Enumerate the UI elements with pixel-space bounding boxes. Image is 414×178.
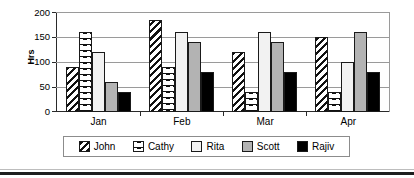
bar-rajiv-jan[interactable] [118, 92, 131, 112]
x-tick-label: Feb [140, 116, 223, 127]
bar-group-apr [306, 12, 389, 112]
bar-cathy-mar[interactable] [245, 92, 258, 112]
x-tick-label: Mar [224, 116, 307, 127]
y-tick-label: 150 [24, 32, 50, 42]
legend-item-rita[interactable]: Rita [191, 141, 224, 152]
bar-scott-jan[interactable] [105, 82, 118, 112]
bar-cathy-jan[interactable] [79, 32, 92, 112]
legend-swatch-icon-rajiv [297, 141, 308, 152]
bar-group-jan [57, 12, 140, 112]
bar-groups [57, 12, 389, 112]
bar-cathy-feb[interactable] [162, 67, 175, 112]
bar-group-mar [223, 12, 306, 112]
divider-thick [0, 172, 414, 175]
bar-rajiv-mar[interactable] [284, 72, 297, 112]
legend-swatch-icon-rita [191, 141, 202, 152]
bar-scott-mar[interactable] [271, 42, 284, 112]
legend-label: Scott [257, 141, 280, 152]
x-tick-label: Jan [57, 116, 140, 127]
y-tick-mark [52, 37, 56, 38]
bar-rita-apr[interactable] [341, 62, 354, 112]
legend-swatch-icon-cathy [133, 141, 144, 152]
plot-area [56, 12, 390, 112]
y-tick-mark [52, 62, 56, 63]
bar-chart: Hrs 200 150 100 50 0 Jan Feb Mar Apr Joh… [0, 0, 414, 178]
bar-cathy-apr[interactable] [328, 92, 341, 112]
legend-item-john[interactable]: John [79, 141, 116, 152]
legend-swatch-icon-john [79, 141, 90, 152]
bar-john-apr[interactable] [315, 37, 328, 112]
legend-label: Cathy [148, 141, 174, 152]
x-tick-label: Apr [307, 116, 390, 127]
y-tick-mark [52, 12, 56, 13]
divider-thin [0, 169, 414, 170]
y-tick-label: 0 [24, 107, 50, 117]
legend-item-cathy[interactable]: Cathy [133, 141, 174, 152]
bar-group-feb [140, 12, 223, 112]
y-tick-mark [52, 111, 56, 112]
y-tick-label: 50 [24, 82, 50, 92]
legend-item-scott[interactable]: Scott [242, 141, 280, 152]
legend-item-rajiv[interactable]: Rajiv [297, 141, 334, 152]
bar-scott-apr[interactable] [354, 32, 367, 112]
legend-label: Rajiv [312, 141, 334, 152]
bar-john-jan[interactable] [66, 67, 79, 112]
y-tick-mark [52, 87, 56, 88]
x-axis-tick-labels: Jan Feb Mar Apr [57, 116, 390, 127]
chart-legend: JohnCathyRitaScottRajiv [63, 136, 350, 157]
bar-rita-jan[interactable] [92, 52, 105, 112]
bar-rajiv-apr[interactable] [367, 72, 380, 112]
bar-scott-feb[interactable] [188, 42, 201, 112]
bar-john-mar[interactable] [232, 52, 245, 112]
bar-rajiv-feb[interactable] [201, 72, 214, 112]
legend-swatch-icon-scott [242, 141, 253, 152]
y-tick-label: 200 [24, 8, 50, 18]
legend-label: John [94, 141, 116, 152]
y-tick-label: 100 [24, 57, 50, 67]
legend-label: Rita [206, 141, 224, 152]
bar-rita-feb[interactable] [175, 32, 188, 112]
bar-rita-mar[interactable] [258, 32, 271, 112]
y-axis-tick-labels: 200 150 100 50 0 [24, 0, 50, 118]
bar-john-feb[interactable] [149, 20, 162, 113]
